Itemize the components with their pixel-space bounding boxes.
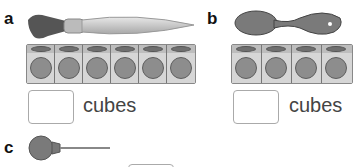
answer-box-a[interactable] — [28, 90, 74, 124]
spoon-icon — [234, 6, 344, 40]
cube — [232, 45, 262, 83]
cube — [55, 45, 83, 83]
answer-box-b[interactable] — [233, 90, 279, 124]
unit-label-a: cubes — [83, 94, 136, 117]
unit-label-b: cubes — [289, 94, 342, 117]
cube — [83, 45, 111, 83]
cube — [167, 45, 195, 83]
lollipop-icon — [28, 134, 114, 162]
cube — [139, 45, 167, 83]
cube-train-a — [26, 44, 196, 84]
cube — [262, 45, 292, 83]
item-b-label: b — [207, 10, 217, 27]
item-c-label: c — [4, 139, 13, 156]
cube — [322, 45, 352, 83]
cube — [111, 45, 139, 83]
item-a-label: a — [4, 10, 13, 27]
cube — [292, 45, 322, 83]
paintbrush-icon — [26, 8, 196, 44]
cube — [27, 45, 55, 83]
cube-train-b — [231, 44, 353, 84]
answer-box-c[interactable] — [128, 164, 174, 167]
